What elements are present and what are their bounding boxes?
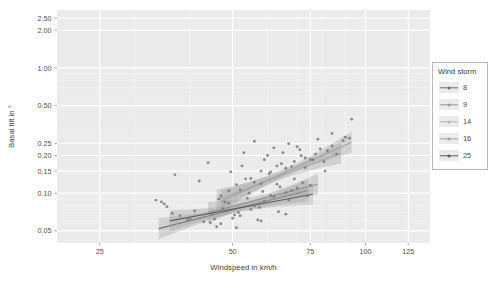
data-point (287, 142, 290, 145)
data-point (260, 170, 263, 173)
data-point (193, 210, 196, 213)
data-point (331, 132, 334, 135)
legend-item-8[interactable]: 8 (439, 82, 467, 93)
data-point (237, 211, 240, 214)
legend-item-label: 9 (463, 101, 467, 108)
data-point (311, 158, 314, 161)
data-point (263, 200, 266, 203)
data-point (246, 197, 249, 200)
data-point (319, 148, 322, 151)
data-point (331, 145, 334, 148)
data-point (261, 190, 264, 193)
data-point (235, 226, 238, 229)
tick-label-y: 2.50 (38, 14, 52, 23)
legend[interactable]: Wind storm 89141625 (432, 62, 488, 170)
legend-key-swatch (439, 82, 459, 93)
data-point (296, 145, 299, 148)
data-point (266, 154, 269, 157)
data-point (163, 203, 166, 206)
data-point (207, 161, 210, 164)
legend-key-swatch (439, 133, 459, 144)
data-point (225, 210, 228, 213)
data-point (229, 170, 232, 173)
data-point (269, 194, 272, 197)
data-point (344, 136, 347, 139)
data-point (211, 213, 214, 216)
data-point (275, 164, 278, 167)
data-point (281, 151, 284, 154)
data-point (154, 199, 157, 202)
data-point (166, 205, 169, 208)
data-point (277, 210, 280, 213)
tick-label-y: 0.05 (38, 226, 52, 235)
chart-root: 2550751001250.050.100.150.200.250.501.00… (0, 0, 496, 284)
tick-label-y: 0.20 (38, 151, 52, 160)
data-point (290, 165, 293, 168)
legend-item-9[interactable]: 9 (439, 99, 467, 110)
tick-label-x: 25 (96, 247, 104, 256)
data-point (217, 197, 220, 200)
data-point (300, 154, 303, 157)
data-point (253, 181, 256, 184)
tick-label-x: 125 (402, 247, 414, 256)
legend-key-point (448, 120, 451, 123)
x-axis-title: Windspeed in km/h (210, 263, 276, 272)
data-point (335, 153, 338, 156)
legend-item-label: 14 (463, 118, 471, 125)
data-point (160, 201, 163, 204)
data-point (233, 213, 236, 216)
data-point (179, 214, 182, 217)
tick-label-y: 2.00 (38, 26, 52, 35)
legend-key-point (448, 86, 451, 89)
data-point (322, 160, 325, 163)
data-point (342, 139, 345, 142)
data-point (242, 151, 245, 154)
data-point (287, 199, 290, 202)
data-point (215, 225, 218, 228)
data-point (202, 220, 205, 223)
data-point (253, 205, 256, 208)
data-point (219, 194, 222, 197)
data-point (275, 183, 278, 186)
legend-key-swatch (439, 150, 459, 161)
tick-label-y: 1.00 (38, 64, 52, 73)
legend-item-14[interactable]: 14 (439, 116, 471, 127)
data-point (290, 189, 293, 192)
data-point (256, 219, 259, 222)
data-point (301, 181, 304, 184)
data-point (186, 219, 189, 222)
data-point (296, 187, 299, 190)
legend-title: Wind storm (438, 67, 476, 76)
legend-item-25[interactable]: 25 (439, 150, 471, 161)
data-point (235, 183, 238, 186)
data-point (227, 190, 230, 193)
data-point (227, 202, 230, 205)
legend-item-label: 8 (463, 84, 467, 91)
data-point (263, 158, 266, 161)
data-point (209, 221, 212, 224)
data-point (348, 137, 351, 140)
data-point (188, 217, 191, 220)
data-point (248, 192, 251, 195)
data-point (260, 182, 263, 185)
data-point (198, 180, 201, 183)
tick-label-x: 50 (229, 247, 237, 256)
legend-item-label: 16 (463, 135, 471, 142)
data-point (309, 158, 312, 161)
legend-item-label: 25 (463, 152, 471, 159)
legend-item-16[interactable]: 16 (439, 133, 471, 144)
data-point (326, 149, 329, 152)
legend-key-point (448, 103, 451, 106)
data-point (249, 208, 252, 211)
tick-label-y: 0.10 (38, 189, 52, 198)
data-point (272, 146, 275, 149)
data-point (316, 138, 319, 141)
data-point (260, 219, 263, 222)
legend-key-point (448, 154, 451, 157)
data-point (284, 167, 287, 170)
data-point (272, 195, 275, 198)
data-point (171, 212, 174, 215)
data-point (304, 157, 307, 160)
data-point (239, 214, 242, 217)
data-point (284, 213, 287, 216)
